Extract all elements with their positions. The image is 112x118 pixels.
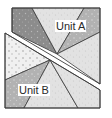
quilt-block-diagram [0, 0, 112, 118]
unit-b-label: Unit B [18, 84, 50, 96]
unit-a-label: Unit A [55, 20, 86, 32]
